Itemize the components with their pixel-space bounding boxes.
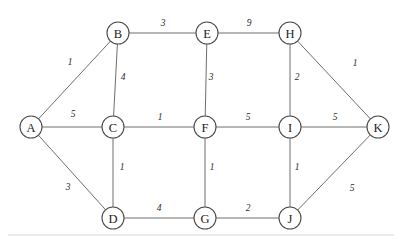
node-label-g: G: [200, 212, 209, 226]
node-label-k: K: [373, 121, 382, 135]
node-label-h: H: [285, 27, 294, 41]
edge-weight-i-j: 1: [295, 162, 300, 172]
node-label-b: B: [114, 27, 122, 41]
edge-weight-e-h: 9: [247, 18, 252, 28]
graph-edge-b-c: [114, 44, 118, 116]
node-label-i: I: [288, 121, 292, 135]
edge-weight-b-c: 4: [121, 72, 126, 82]
graph-canvas: ABCDEFGHIJK 153341149351221155: [0, 0, 402, 239]
weighted-graph-figure: ABCDEFGHIJK 153341149351221155: [0, 0, 402, 239]
graph-edge-e-f: [205, 44, 207, 116]
graph-node-d[interactable]: D: [102, 207, 124, 229]
edge-weight-a-c: 5: [71, 109, 76, 119]
graph-edge-h-k: [298, 41, 371, 119]
node-label-c: C: [109, 121, 117, 135]
edge-weight-d-g: 4: [157, 203, 162, 213]
graph-node-e[interactable]: E: [196, 22, 218, 44]
graph-edge-weights-layer: 153341149351221155: [65, 18, 358, 213]
edge-weight-h-i: 2: [295, 72, 300, 82]
graph-node-b[interactable]: B: [107, 22, 129, 44]
node-label-e: E: [203, 27, 211, 41]
graph-node-g[interactable]: G: [194, 207, 216, 229]
edge-weight-c-f: 1: [158, 112, 163, 122]
edge-weight-c-d: 1: [120, 162, 125, 172]
node-label-a: A: [26, 121, 35, 135]
edge-weight-f-i: 5: [246, 112, 251, 122]
graph-edge-a-d: [38, 135, 105, 210]
graph-node-k[interactable]: K: [367, 116, 389, 138]
edge-weight-b-e: 3: [160, 18, 166, 28]
edge-weight-j-k: 5: [350, 183, 355, 193]
graph-node-j[interactable]: J: [279, 207, 301, 229]
node-label-j: J: [288, 212, 293, 226]
edge-weight-i-k: 5: [333, 112, 338, 122]
edge-weight-e-f: 3: [208, 72, 214, 82]
graph-node-c[interactable]: C: [102, 116, 124, 138]
edge-weight-a-b: 1: [68, 57, 73, 67]
edge-weight-a-d: 3: [65, 182, 71, 192]
node-label-d: D: [108, 212, 117, 226]
graph-node-a[interactable]: A: [20, 116, 42, 138]
graph-edge-j-k: [298, 135, 371, 210]
edge-weight-f-g: 1: [210, 162, 215, 172]
graph-node-h[interactable]: H: [279, 22, 301, 44]
node-label-f: F: [202, 121, 209, 135]
graph-node-i[interactable]: I: [279, 116, 301, 138]
graph-node-f[interactable]: F: [194, 116, 216, 138]
edge-weight-h-k: 1: [353, 58, 358, 68]
edge-weight-g-j: 2: [246, 203, 251, 213]
graph-edge-a-b: [38, 41, 110, 119]
